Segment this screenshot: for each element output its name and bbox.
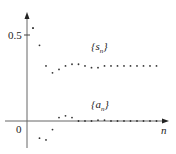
data-point xyxy=(71,117,73,119)
data-point xyxy=(45,65,47,67)
data-point xyxy=(45,139,47,141)
data-point xyxy=(78,120,80,122)
data-point xyxy=(71,63,73,65)
data-point xyxy=(52,129,54,131)
x-axis-arrow-icon xyxy=(162,119,169,124)
data-point xyxy=(91,67,93,69)
data-point xyxy=(104,65,106,67)
data-point xyxy=(130,120,132,122)
data-point xyxy=(149,120,151,122)
data-point xyxy=(117,65,119,67)
origin-label: 0 xyxy=(16,124,22,135)
data-point xyxy=(149,65,151,67)
sequence-plot xyxy=(0,0,176,154)
data-point xyxy=(97,67,99,69)
axes xyxy=(5,12,169,148)
data-point xyxy=(84,120,86,122)
data-point xyxy=(84,65,86,67)
data-point xyxy=(110,65,112,67)
data-point xyxy=(156,65,158,67)
data-point xyxy=(78,63,80,65)
data-point xyxy=(58,117,60,119)
data-point xyxy=(52,72,54,74)
data-point xyxy=(65,65,67,67)
data-point xyxy=(58,69,60,71)
data-point xyxy=(123,65,125,67)
data-point xyxy=(32,27,34,29)
data-point xyxy=(117,120,119,122)
data-point xyxy=(65,115,67,117)
data-point xyxy=(104,119,106,121)
y-axis-arrow-icon xyxy=(25,12,30,19)
legend-s-n: {sn} xyxy=(91,41,108,55)
data-point xyxy=(136,65,138,67)
data-point xyxy=(39,44,41,46)
data-point xyxy=(130,65,132,67)
legend-a-n: {an} xyxy=(91,99,109,113)
data-point xyxy=(97,119,99,121)
data-point xyxy=(143,65,145,67)
data-point xyxy=(91,120,93,122)
x-axis-label: n xyxy=(161,125,167,136)
data-point xyxy=(143,120,145,122)
data-point xyxy=(156,120,158,122)
data-point xyxy=(123,120,125,122)
data-point xyxy=(39,137,41,139)
data-point xyxy=(136,120,138,122)
y-tick-label-half: 0.5 xyxy=(8,30,22,41)
data-point xyxy=(110,120,112,122)
